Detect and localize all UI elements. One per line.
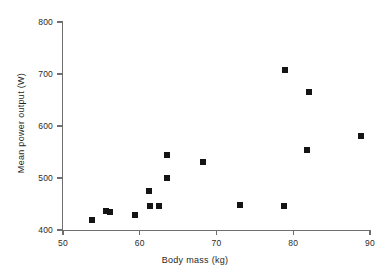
data-point — [358, 133, 364, 139]
scatter-chart-figure: 400500600700800 5060708090 Body mass (kg… — [0, 0, 390, 279]
data-point — [164, 152, 170, 158]
x-axis-tick — [62, 230, 63, 235]
x-axis-tick — [369, 230, 370, 235]
data-point — [164, 175, 170, 181]
data-point — [282, 67, 288, 73]
data-point — [89, 217, 95, 223]
y-axis-tick-label: 800 — [23, 17, 53, 27]
data-point — [107, 209, 113, 215]
x-axis-tick — [216, 230, 217, 235]
y-axis-tick-label: 500 — [23, 173, 53, 183]
data-point — [281, 203, 287, 209]
y-axis-tick — [57, 73, 62, 74]
data-point — [304, 147, 310, 153]
y-axis-tick — [57, 229, 62, 230]
y-axis-tick — [57, 177, 62, 178]
data-point — [147, 203, 153, 209]
y-axis-tick — [57, 125, 62, 126]
data-point — [237, 202, 243, 208]
data-point — [146, 188, 152, 194]
data-point — [306, 89, 312, 95]
data-point — [200, 159, 206, 165]
x-axis-tick-label: 60 — [125, 238, 155, 248]
x-axis-tick — [293, 230, 294, 235]
y-axis-tick-label: 700 — [23, 69, 53, 79]
y-axis-title: Mean power output (W) — [16, 48, 26, 198]
data-point — [132, 212, 138, 218]
y-axis-tick — [57, 21, 62, 22]
plot-area — [63, 22, 370, 230]
x-axis-title: Body mass (kg) — [0, 255, 390, 265]
y-axis-tick-label: 600 — [23, 121, 53, 131]
x-axis-tick — [139, 230, 140, 235]
x-axis-tick-label: 50 — [48, 238, 78, 248]
x-axis-tick-label: 80 — [278, 238, 308, 248]
data-point — [156, 203, 162, 209]
y-axis-tick-label: 400 — [23, 225, 53, 235]
x-axis-tick-label: 70 — [202, 238, 232, 248]
x-axis-tick-label: 90 — [355, 238, 385, 248]
